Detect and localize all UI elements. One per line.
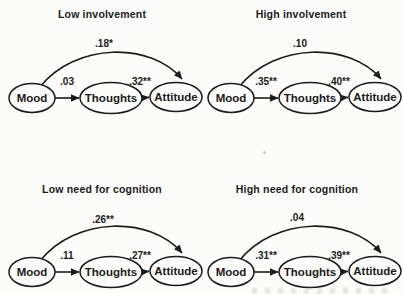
node-label-thoughts: Thoughts xyxy=(284,266,336,278)
node-label-attitude: Attitude xyxy=(154,91,197,103)
arrow-thoughts-attitude xyxy=(341,271,348,272)
node-label-attitude: Attitude xyxy=(154,265,197,277)
coefficient-thoughts-attitude: .32** xyxy=(129,76,151,87)
coefficient-mood-attitude: .10 xyxy=(293,38,307,49)
node-label-mood: Mood xyxy=(17,92,48,104)
coefficient-mood-attitude: .26** xyxy=(92,214,114,225)
path-diagram-figure: Low involvement .18* .03 .32** Mood Thou… xyxy=(0,0,403,294)
scanned-figure-page: Low involvement .18* .03 .32** Mood Thou… xyxy=(0,0,403,294)
coefficient-mood-attitude: .04 xyxy=(290,212,304,223)
cut-off-caption-artifact xyxy=(252,288,394,294)
panel-title: High involvement xyxy=(256,8,347,20)
coefficient-thoughts-attitude: .40** xyxy=(328,76,350,87)
panel-low-need-for-cognition: Low need for cognition .26** .11 .27** M… xyxy=(9,183,202,288)
coefficient-thoughts-attitude: .39** xyxy=(328,250,350,261)
coefficient-thoughts-attitude: .27** xyxy=(129,250,151,261)
node-label-thoughts: Thoughts xyxy=(85,266,137,278)
arrow-thoughts-attitude xyxy=(142,97,149,98)
coefficient-mood-thoughts: .11 xyxy=(60,250,74,261)
coefficient-mood-attitude: .18* xyxy=(95,38,113,49)
node-label-mood: Mood xyxy=(216,92,247,104)
panel-title: Low need for cognition xyxy=(42,183,162,195)
panel-low-involvement: Low involvement .18* .03 .32** Mood Thou… xyxy=(9,8,202,114)
node-label-attitude: Attitude xyxy=(353,91,396,103)
panel-high-need-for-cognition: High need for cognition .04 .31** .39** … xyxy=(208,183,401,288)
node-label-mood: Mood xyxy=(17,266,48,278)
panel-high-involvement: High involvement .10 .35** .40** Mood Th… xyxy=(208,8,401,114)
arrow-thoughts-attitude xyxy=(341,97,348,98)
node-label-mood: Mood xyxy=(216,266,247,278)
node-label-attitude: Attitude xyxy=(353,265,396,277)
coefficient-mood-thoughts: .31** xyxy=(255,250,277,261)
coefficient-mood-thoughts: .03 xyxy=(60,76,74,87)
panel-title: Low involvement xyxy=(58,8,146,20)
panel-title: High need for cognition xyxy=(236,183,358,195)
arrow-thoughts-attitude xyxy=(142,271,149,272)
node-label-thoughts: Thoughts xyxy=(284,92,336,104)
node-label-thoughts: Thoughts xyxy=(85,92,137,104)
scan-speck-artifact xyxy=(263,151,266,154)
coefficient-mood-thoughts: .35** xyxy=(255,76,277,87)
